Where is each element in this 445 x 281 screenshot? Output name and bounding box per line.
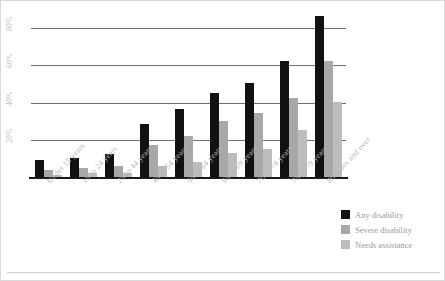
legend-swatch-icon bbox=[341, 210, 350, 219]
bar bbox=[210, 93, 219, 178]
bar bbox=[254, 113, 263, 177]
legend-item[interactable]: Severe disability bbox=[341, 222, 443, 237]
bar bbox=[324, 61, 333, 177]
legend-swatch-icon bbox=[341, 225, 350, 234]
chart-legend: Any disabilitySevere disabilityNeeds ass… bbox=[341, 207, 443, 252]
legend-label: Severe disability bbox=[355, 225, 412, 235]
legend-label: Needs assistance bbox=[355, 240, 412, 250]
disability-by-age-bar-chart: 20%40%60%80% Under 15 years15 to 24 year… bbox=[0, 0, 445, 281]
legend-item[interactable]: Needs assistance bbox=[341, 237, 443, 252]
y-tick-label-text: 80% bbox=[5, 16, 14, 31]
bar bbox=[35, 160, 44, 177]
x-axis-tick-labels: Under 15 years15 to 24 years25 to 44 yea… bbox=[31, 179, 346, 274]
bar-group bbox=[31, 9, 66, 177]
y-tick-label-text: 60% bbox=[5, 54, 14, 69]
y-tick-label-text: 40% bbox=[5, 91, 14, 106]
y-tick-label-text: 20% bbox=[5, 129, 14, 144]
legend-item[interactable]: Any disability bbox=[341, 207, 443, 222]
bar bbox=[289, 98, 298, 177]
legend-label: Any disability bbox=[355, 210, 403, 220]
legend-swatch-icon bbox=[341, 240, 350, 249]
bottom-divider bbox=[7, 272, 440, 273]
